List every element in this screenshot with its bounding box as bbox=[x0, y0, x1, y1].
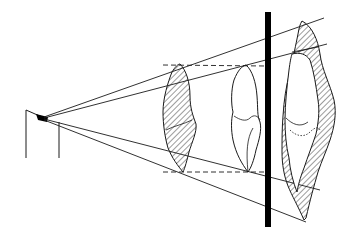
outline-object-middle bbox=[232, 65, 261, 172]
hatched-object-left bbox=[163, 64, 196, 172]
detector-bar bbox=[265, 12, 271, 227]
outline-object-joint bbox=[234, 116, 260, 120]
projection-diagram bbox=[0, 0, 348, 235]
